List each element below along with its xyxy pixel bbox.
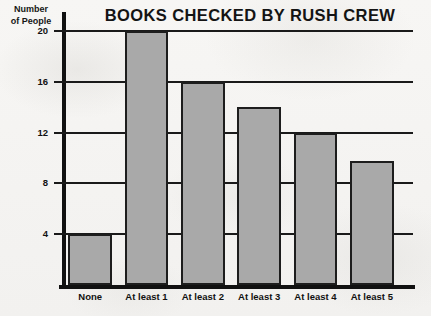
y-axis-title-line-1: Number	[2, 4, 60, 16]
gridline	[62, 30, 413, 32]
bar	[237, 107, 281, 285]
y-axis-tick	[54, 81, 63, 83]
y-axis-tick	[54, 132, 63, 134]
x-axis-tick-label: At least 1	[118, 291, 174, 302]
bar	[68, 234, 112, 285]
x-axis-tick-label: At least 5	[344, 291, 400, 302]
x-axis-tick-label: At least 2	[175, 291, 231, 302]
bar	[125, 31, 169, 285]
y-axis-tick-label: 20	[22, 25, 48, 36]
bar	[350, 161, 394, 285]
y-axis-tick-label: 16	[22, 76, 48, 87]
x-axis-tick-label: None	[62, 291, 118, 302]
y-axis-line	[62, 12, 66, 289]
bar-chart: BOOKS CHECKED BY RUSH CREW Number of Peo…	[0, 0, 431, 316]
chart-title: BOOKS CHECKED BY RUSH CREW	[80, 6, 420, 25]
y-axis-tick-label: 12	[22, 127, 48, 138]
gridline	[62, 81, 413, 83]
y-axis-tick	[54, 30, 63, 32]
y-axis-tick-label: 8	[22, 177, 48, 188]
bar	[181, 82, 225, 285]
x-axis-tick-label: At least 4	[287, 291, 343, 302]
x-axis-line	[59, 285, 415, 289]
y-axis-tick	[54, 182, 63, 184]
bar	[294, 133, 338, 285]
y-axis-tick	[54, 233, 63, 235]
x-axis-tick-label: At least 3	[231, 291, 287, 302]
y-axis-title: Number of People	[2, 4, 60, 27]
y-axis-tick-label: 4	[22, 228, 48, 239]
